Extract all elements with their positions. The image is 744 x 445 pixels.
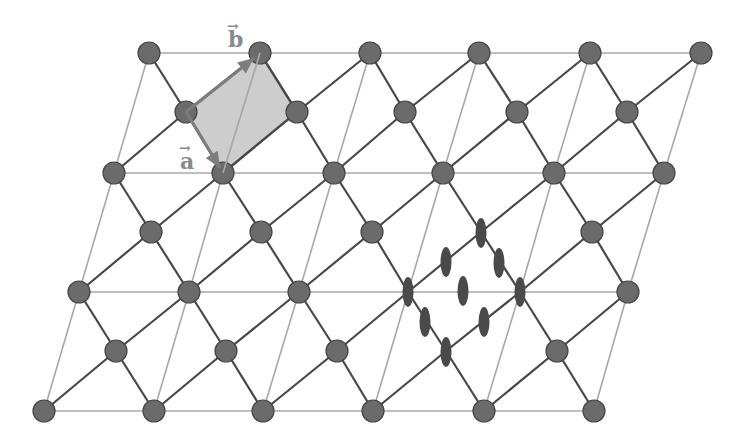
vector-arrow-icon: → <box>227 19 239 33</box>
lattice-node <box>140 221 162 243</box>
lattice-node <box>252 400 274 422</box>
vector-a-label: → a <box>180 150 194 172</box>
lattice-node <box>394 101 416 123</box>
lattice-node <box>617 281 639 303</box>
lattice-node <box>288 281 310 303</box>
lattice-node <box>581 221 603 243</box>
lattice-node <box>326 340 348 362</box>
lattice-node <box>359 42 381 64</box>
vector-arrow-icon: → <box>179 141 191 155</box>
lattice-node <box>215 340 237 362</box>
orbital-ellipse <box>476 218 487 248</box>
orbital-ellipse <box>458 276 469 306</box>
lattice-node <box>653 162 675 184</box>
lattice-node <box>506 101 528 123</box>
lattice-node <box>138 42 160 64</box>
lattice-node <box>690 42 712 64</box>
lattice-node <box>105 340 127 362</box>
lattice-node <box>473 400 495 422</box>
lattice-node <box>362 400 384 422</box>
lattice-node <box>286 101 308 123</box>
lattice-node <box>250 221 272 243</box>
lattice-node <box>33 400 55 422</box>
lattice-node <box>361 221 383 243</box>
lattice-node <box>68 281 90 303</box>
lattice-node <box>579 42 601 64</box>
lattice-node <box>143 400 165 422</box>
lattice-node <box>432 162 454 184</box>
orbital-ellipse <box>494 248 505 278</box>
lattice-node <box>616 101 638 123</box>
orbital-ellipse <box>420 307 431 337</box>
orbital-ellipse <box>441 337 452 367</box>
lattice-node <box>178 281 200 303</box>
orbital-ellipse <box>479 307 490 337</box>
lattice-diagram <box>0 0 744 445</box>
lattice-node <box>103 162 125 184</box>
lattice-node <box>583 400 605 422</box>
lattice-node <box>546 340 568 362</box>
vector-b-label: → b <box>228 28 243 50</box>
orbital-ellipse <box>403 277 414 307</box>
orbital-ellipse <box>441 247 452 277</box>
orbital-ellipse <box>515 277 526 307</box>
lattice-node <box>323 162 345 184</box>
lattice-node <box>543 162 565 184</box>
lattice-node <box>468 42 490 64</box>
